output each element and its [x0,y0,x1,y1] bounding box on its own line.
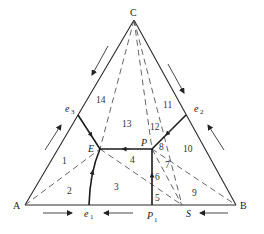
arrow-on-e3E [86,127,91,135]
edge-AC [25,20,134,205]
triangle-edges [25,20,236,205]
label-e3: e 3 [65,103,75,116]
label-P: P [140,137,147,148]
label-P1: P 1 [146,210,158,224]
label-P1-main: P [146,210,153,221]
curve-e1-E [89,149,100,205]
ternary-phase-diagram: C A B E P S P 1 e 1 e 2 e 3 1 2 3 4 5 6 … [0,0,264,234]
label-e3-sub: 3 [71,108,75,116]
region-6: 6 [155,172,160,182]
arrow-on-e2P [167,128,173,134]
label-A: A [13,200,21,211]
label-e3-main: e [65,103,70,114]
point-labels: C A B E P S P 1 e 1 e 2 e 3 [13,7,247,224]
region-12: 12 [150,122,160,132]
region-3: 3 [114,182,119,192]
label-S: S [186,208,191,219]
label-e1-sub: 1 [90,213,94,221]
region-14: 14 [96,95,106,105]
label-P1-sub: 1 [154,216,158,224]
arrow-AC-up [45,125,61,150]
arrow-BC-up [208,125,224,150]
label-e1-main: e [84,208,89,219]
region-13: 13 [122,119,132,129]
connection-lines [25,20,236,205]
region-5: 5 [155,193,160,203]
label-C: C [130,7,137,18]
region-8: 8 [159,142,164,152]
region-11: 11 [163,100,172,110]
arrow-CA-down [92,46,108,75]
line-C-E [100,20,134,149]
region-2: 2 [67,186,72,196]
label-E: E [87,143,94,154]
region-9: 9 [192,188,197,198]
region-1: 1 [62,156,67,166]
label-e2: e 2 [194,103,204,116]
region-7: 7 [165,160,170,170]
region-4: 4 [130,155,135,165]
arrow-CB-down [168,64,184,93]
edge-BC [134,20,236,205]
label-e2-sub: 2 [200,108,204,116]
label-e1: e 1 [84,208,94,221]
label-e2-main: e [194,103,199,114]
region-10: 10 [183,144,193,154]
label-B: B [240,200,247,211]
